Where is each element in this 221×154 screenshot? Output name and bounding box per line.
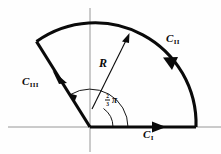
contour-label-c3-letter: C (22, 75, 29, 87)
contour-label-c1-subscript: I (151, 134, 154, 142)
angle-sweep-arc-inner (104, 109, 114, 128)
angle-label-numerator: 2 (106, 94, 109, 100)
angle-label-denominator: 3 (106, 101, 109, 107)
contour-label-c2: CII (166, 32, 179, 44)
contour-label-c1: CI (143, 128, 153, 140)
arrowhead-c3-toward-origin (53, 71, 68, 85)
radius-label: R (99, 56, 107, 71)
radius-arrowhead (122, 33, 130, 43)
contour-segment-c3 (37, 42, 91, 128)
pi-symbol: π (112, 95, 117, 105)
contour-label-c3-subscript: III (30, 81, 39, 89)
contour-label-c1-letter: C (143, 128, 150, 140)
contour-label-c2-letter: C (166, 32, 173, 44)
contour-label-c2-subscript: II (174, 38, 180, 46)
angle-label: 2 3 π (105, 93, 117, 106)
axes-group (8, 8, 221, 152)
angle-label-fraction: 2 3 (105, 94, 110, 107)
complex-contour-sector-diagram: CI CII CIII R 2 3 π (0, 0, 221, 154)
arrowhead-c1-rightward (152, 122, 166, 133)
contour-label-c3: CIII (22, 75, 38, 87)
